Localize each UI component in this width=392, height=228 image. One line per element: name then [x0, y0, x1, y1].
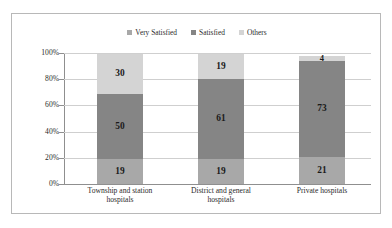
y-axis: 100% 80% 60% 40% 20% 0% [12, 53, 59, 184]
bar-column-township-and-station-hospitals[interactable]: 30 50 19 [97, 53, 143, 184]
bar-segment-satisfied[interactable]: 73 [299, 61, 345, 157]
bar-value-satisfied: 73 [317, 104, 326, 113]
x-tick-line-2: hospitals [207, 195, 234, 204]
y-tick-label-40: 40% [17, 128, 59, 136]
bar-value-satisfied: 61 [216, 114, 225, 123]
y-tick-label-80: 80% [17, 75, 59, 83]
gridline-0 [64, 184, 371, 185]
bar-value-others: 30 [115, 69, 124, 78]
bar-column-private-hospitals[interactable]: 4 73 21 [299, 53, 345, 184]
bar-segment-satisfied[interactable]: 61 [198, 79, 244, 159]
y-tick-label-20: 20% [17, 154, 59, 162]
bar-value-satisfied: 50 [115, 122, 124, 131]
x-tick-label-district-and-general-hospitals: District and general hospitals [165, 186, 277, 205]
plot-area: 30 50 19 19 61 19 [64, 53, 371, 184]
x-tick-line-1: Township and station [88, 186, 153, 195]
bar-segment-very-satisfied[interactable]: 19 [97, 159, 143, 184]
x-tick-label-township-and-station-hospitals: Township and station hospitals [64, 186, 176, 205]
y-tick-label-0: 0% [17, 180, 59, 188]
x-tick-line-1: District and general [191, 186, 251, 195]
bar-value-very-satisfied: 19 [216, 167, 225, 176]
x-axis: Township and station hospitals District … [64, 186, 371, 214]
bar-segment-others[interactable]: 30 [97, 54, 143, 93]
y-tick-label-100: 100% [17, 49, 59, 57]
bar-value-very-satisfied: 21 [317, 166, 326, 175]
chart-frame: Very Satisfied Satisfied Others 100% 80%… [11, 13, 381, 214]
x-tick-line-1: Private hospitals [297, 186, 347, 195]
bar-value-others: 19 [216, 62, 225, 71]
plot-wrapper: 100% 80% 60% 40% 20% 0% [12, 14, 382, 215]
x-tick-line-2: hospitals [106, 195, 133, 204]
y-tick-label-60: 60% [17, 102, 59, 110]
x-tick-label-private-hospitals: Private hospitals [266, 186, 378, 195]
bar-segment-very-satisfied[interactable]: 21 [299, 157, 345, 185]
bar-segment-others[interactable]: 19 [198, 54, 244, 79]
bar-segment-satisfied[interactable]: 50 [97, 94, 143, 160]
bar-column-district-and-general-hospitals[interactable]: 19 61 19 [198, 53, 244, 184]
bar-segment-very-satisfied[interactable]: 19 [198, 159, 244, 184]
bar-value-very-satisfied: 19 [115, 167, 124, 176]
